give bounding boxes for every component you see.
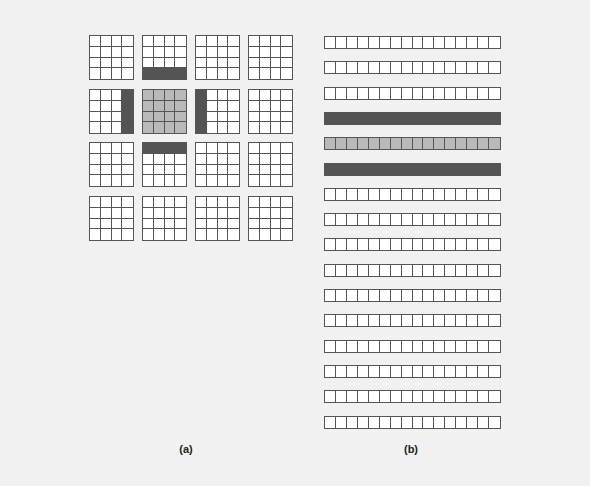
strip-cell: [369, 265, 380, 276]
strip-cell: [413, 341, 424, 352]
cell: [112, 122, 123, 133]
cell: [101, 197, 112, 208]
cell: [165, 208, 176, 219]
strip-cell: [434, 62, 445, 73]
cell: [175, 175, 186, 186]
cell: [101, 219, 112, 230]
cell: [90, 197, 101, 208]
cell: [101, 122, 112, 133]
strip-cell: [456, 62, 467, 73]
cell: [228, 112, 239, 123]
strip-cell: [380, 214, 391, 225]
strip-cell: [358, 315, 369, 326]
cell: [154, 47, 165, 58]
strip-cell: [369, 113, 380, 124]
strip-cell: [456, 417, 467, 428]
strip-cell: [369, 214, 380, 225]
cell: [207, 36, 218, 47]
cell: [101, 90, 112, 101]
strip-cell: [380, 366, 391, 377]
strip-cell: [402, 341, 413, 352]
strip-cell: [434, 189, 445, 200]
cell: [260, 208, 271, 219]
cell: [143, 219, 154, 230]
strip-cell: [347, 138, 358, 149]
strip-cell: [445, 113, 456, 124]
cell: [112, 165, 123, 176]
strip-cell: [336, 214, 347, 225]
cell: [271, 165, 282, 176]
cell: [90, 219, 101, 230]
strip-cell: [391, 366, 402, 377]
strip-cell: [336, 315, 347, 326]
cell: [143, 143, 154, 154]
strip-cell: [336, 366, 347, 377]
cell: [90, 101, 101, 112]
cell: [196, 36, 207, 47]
cell: [101, 154, 112, 165]
cell: [112, 36, 123, 47]
cell: [143, 47, 154, 58]
cell: [112, 175, 123, 186]
strip-cell: [423, 62, 434, 73]
strip-cell: [478, 138, 489, 149]
strip-cell: [423, 164, 434, 175]
cell: [122, 68, 133, 79]
strip-13: [324, 365, 501, 378]
strip-cell: [467, 239, 478, 250]
cell: [228, 68, 239, 79]
strip-cell: [358, 62, 369, 73]
cell: [175, 101, 186, 112]
strip-cell: [402, 138, 413, 149]
cell: [249, 58, 260, 69]
cell: [260, 143, 271, 154]
cell: [101, 68, 112, 79]
block-1-1: [142, 89, 187, 134]
cell: [281, 219, 292, 230]
strip-cell: [445, 417, 456, 428]
cell: [260, 154, 271, 165]
cell: [249, 122, 260, 133]
cell: [281, 175, 292, 186]
cell: [207, 90, 218, 101]
cell: [218, 208, 229, 219]
cell: [101, 165, 112, 176]
strip-cell: [423, 315, 434, 326]
cell: [101, 36, 112, 47]
strip-cell: [478, 239, 489, 250]
strip-cell: [434, 88, 445, 99]
strip-cell: [347, 37, 358, 48]
cell: [249, 229, 260, 240]
block-1-2: [195, 89, 240, 134]
strip-cell: [489, 113, 500, 124]
cell: [218, 154, 229, 165]
strip-cell: [380, 88, 391, 99]
cell: [122, 58, 133, 69]
cell: [175, 143, 186, 154]
strip-cell: [402, 62, 413, 73]
cell: [112, 101, 123, 112]
cell: [143, 36, 154, 47]
cell: [207, 175, 218, 186]
cell: [143, 165, 154, 176]
strip-cell: [434, 214, 445, 225]
strip-cell: [478, 290, 489, 301]
strip-cell: [413, 417, 424, 428]
strip-cell: [336, 138, 347, 149]
strip-cell: [380, 62, 391, 73]
strip-cell: [467, 189, 478, 200]
strip-15: [324, 416, 501, 429]
strip-cell: [423, 37, 434, 48]
block-2-1: [142, 142, 187, 187]
cell: [196, 101, 207, 112]
cell: [249, 154, 260, 165]
cell: [207, 219, 218, 230]
cell: [165, 47, 176, 58]
cell: [154, 143, 165, 154]
strip-cell: [423, 391, 434, 402]
strip-cell: [380, 341, 391, 352]
cell: [249, 197, 260, 208]
strip-cell: [380, 391, 391, 402]
strip-cell: [402, 189, 413, 200]
block-2-2: [195, 142, 240, 187]
